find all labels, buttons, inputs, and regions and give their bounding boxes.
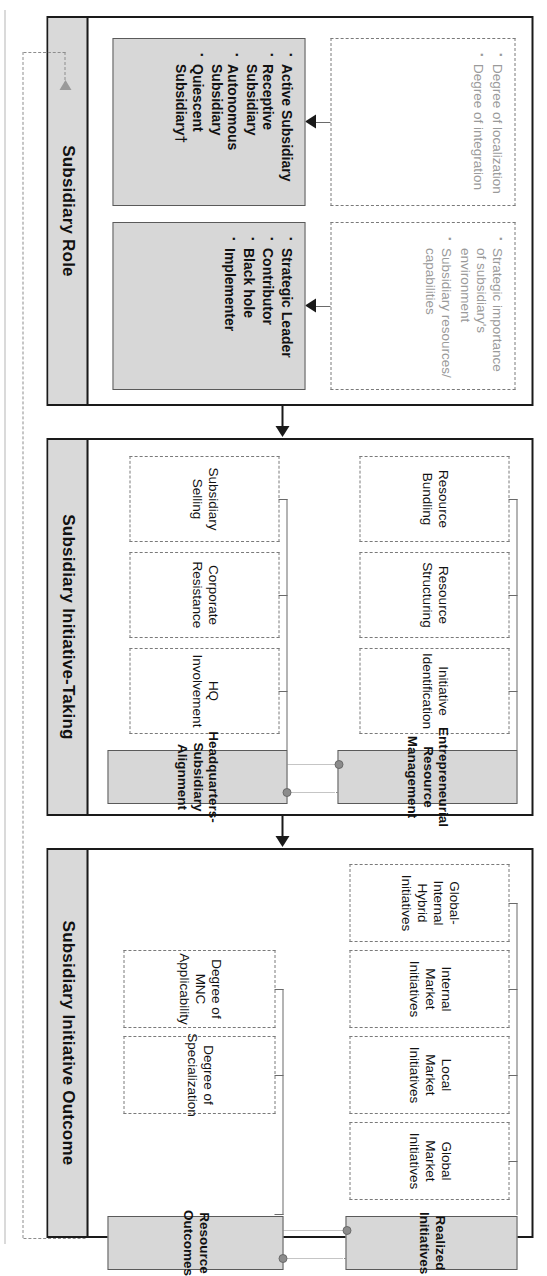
role-antecedents-1: Degree of localization Degree of integra…	[330, 38, 515, 206]
bracket-ro-stem-1	[274, 989, 283, 990]
construct-label: Resource Outcomes	[179, 1210, 210, 1276]
ri-child-label: Local Market Initiatives	[405, 1041, 453, 1109]
section-initiative-taking-body: Resource Bundling Resource Structuring I…	[88, 440, 531, 814]
ri-child-local-market: Local Market Initiatives	[349, 1036, 509, 1114]
bracket-hsa-stem-1	[278, 499, 287, 500]
ro-child-label: Degree of Specialization	[183, 1033, 215, 1116]
role-type-item: Autonomous Subsidiary	[208, 53, 240, 197]
section-initiative-outcome-body: Global-Internal Hybrid Initiatives Inter…	[88, 850, 531, 1236]
construct-headquarters-subsidiary-alignment: Headquarters- Subsidiary Alignment	[107, 750, 287, 804]
figure-bottom-rule	[4, 10, 5, 1244]
role-types-1: Active Subsidiary Receptive Subsidiary A…	[112, 38, 305, 206]
feedback-line-bottom	[22, 52, 23, 1238]
bracket-ro-stem-2	[274, 1075, 283, 1076]
role-type-item: Quiescent Subsidiary†	[172, 53, 204, 197]
bracket-resource-outcomes	[282, 989, 283, 1215]
construct-realized-initiatives: Realized Initiatives	[345, 1216, 517, 1270]
arrow-initiative-to-outcome	[275, 816, 289, 848]
construct-label: Headquarters- Subsidiary Alignment	[174, 731, 221, 823]
link-node-hsa	[282, 788, 291, 797]
section-title-subsidiary-initiative-taking: Subsidiary Initiative-Taking	[48, 440, 88, 814]
link-node-resource-outcomes	[278, 1254, 287, 1263]
ri-child-label: Global Market Initiatives	[405, 1127, 453, 1195]
erm-child-label: Resource Structuring	[418, 557, 450, 633]
ri-child-label: Internal Market Initiatives	[405, 955, 453, 1023]
ro-child-degree-mnc-applicability: Degree of MNC Applicability	[123, 950, 275, 1028]
arrow-role-to-initiative	[275, 406, 289, 438]
link-node-erm	[334, 760, 343, 769]
section-title-subsidiary-initiative-outcome: Subsidiary Initiative Outcome	[48, 850, 88, 1236]
bracket-ri-stem-4	[508, 1161, 517, 1162]
role-antecedent-item: Degree of integration	[469, 53, 485, 195]
bracket-ri-stem-2	[508, 989, 517, 990]
link-node-realized-initiatives	[342, 1226, 351, 1235]
bracket-hsa-stem-3	[278, 691, 287, 692]
role-antecedents-2: Strategic importance of subsidiary's env…	[330, 222, 515, 390]
hsa-child-subsidiary-selling: Subsidiary Selling	[129, 456, 279, 542]
role-antecedent-item: Strategic importance of subsidiary's env…	[456, 237, 504, 379]
role-types-2: Strategic Leader Contributor Black hole …	[112, 222, 305, 390]
role-antecedent-item: Subsidiary resources/ capabilities	[421, 237, 453, 379]
erm-child-label: Initiative Identification	[418, 653, 450, 729]
hsa-child-corporate-resistance: Corporate Resistance	[129, 552, 279, 638]
bracket-ro-stem-3	[274, 1214, 283, 1215]
role-type-item: Receptive Subsidiary	[243, 53, 275, 197]
role-type-item: Active Subsidiary	[278, 53, 294, 197]
section-title-subsidiary-role: Subsidiary Role	[48, 18, 88, 404]
dotted-link-constructs-1	[287, 764, 337, 765]
section-subsidiary-initiative-taking: Resource Bundling Resource Structuring I…	[46, 438, 533, 816]
ri-child-global-internal-hybrid: Global-Internal Hybrid Initiatives	[349, 864, 509, 942]
role-type-item: Strategic Leader	[278, 237, 294, 381]
construct-entrepreneurial-resource-management: Entrepreneurial Resource Management	[337, 750, 517, 804]
erm-child-label: Resource Bundling	[418, 461, 450, 537]
dotted-link-outcome-1	[283, 1230, 345, 1231]
ro-child-degree-specialization: Degree of Specialization	[123, 1036, 275, 1114]
bracket-ri-stem-3	[508, 1075, 517, 1076]
dotted-link-outcome-2	[283, 1258, 345, 1259]
section-subsidiary-initiative-outcome: Global-Internal Hybrid Initiatives Inter…	[46, 848, 533, 1238]
hsa-child-hq-involvement: HQ Involvement	[129, 648, 279, 734]
role-type-item: Implementer	[221, 237, 237, 381]
bracket-erm-stem-2	[508, 595, 517, 596]
ri-child-global-market: Global Market Initiatives	[349, 1122, 509, 1200]
hsa-child-label: Corporate Resistance	[188, 557, 220, 633]
erm-child-resource-bundling: Resource Bundling	[359, 456, 509, 542]
construct-resource-outcomes: Resource Outcomes	[107, 1216, 283, 1270]
feedback-line-left-riser	[23, 52, 65, 53]
section-subsidiary-role-body: Degree of localization Degree of integra…	[88, 18, 531, 404]
construct-label: Entrepreneurial Resource Management	[404, 727, 451, 827]
hsa-child-label: Subsidiary Selling	[188, 461, 220, 537]
bracket-erm-stem-1	[508, 499, 517, 500]
bracket-erm	[516, 499, 517, 750]
erm-child-resource-structuring: Resource Structuring	[359, 552, 509, 638]
ri-child-label: Global-Internal Hybrid Initiatives	[397, 869, 461, 937]
hsa-child-label: HQ Involvement	[188, 653, 220, 729]
section-subsidiary-role: Degree of localization Degree of integra…	[46, 16, 533, 406]
construct-label: Realized Initiatives	[415, 1212, 446, 1274]
ri-child-internal-market: Internal Market Initiatives	[349, 950, 509, 1028]
bracket-ri-stem-1	[508, 903, 517, 904]
role-type-item: Black hole	[240, 237, 256, 381]
feedback-line-right-riser	[23, 1238, 85, 1239]
role-antecedent-item: Degree of localization	[488, 53, 504, 195]
bracket-hsa	[286, 499, 287, 750]
bracket-realized-initiatives	[516, 903, 517, 1215]
ro-child-label: Degree of MNC Applicability	[175, 953, 223, 1024]
bracket-erm-stem-3	[508, 691, 517, 692]
erm-child-initiative-identification: Initiative Identification	[359, 648, 509, 734]
role-type-item: Contributor	[259, 237, 275, 381]
dotted-link-constructs-2	[287, 792, 337, 793]
bracket-hsa-stem-2	[278, 595, 287, 596]
feedback-arrowhead	[59, 80, 71, 90]
